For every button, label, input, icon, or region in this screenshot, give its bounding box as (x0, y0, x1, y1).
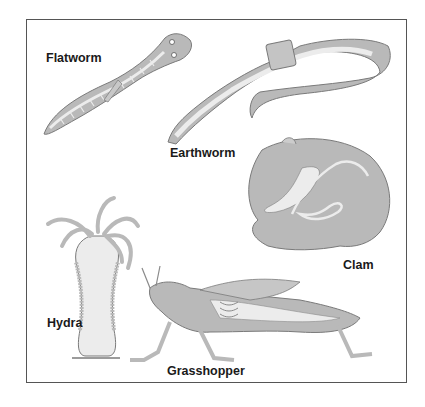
hydra-illustration (48, 198, 138, 358)
label-hydra: Hydra (47, 316, 82, 330)
label-earthworm: Earthworm (170, 146, 235, 160)
label-grasshopper: Grasshopper (167, 364, 245, 378)
grasshopper-illustration (130, 266, 372, 360)
clam-illustration (249, 138, 390, 250)
flatworm-illustration (44, 34, 192, 135)
label-flatworm: Flatworm (46, 51, 102, 65)
earthworm-illustration (168, 39, 390, 144)
label-clam: Clam (343, 258, 374, 272)
